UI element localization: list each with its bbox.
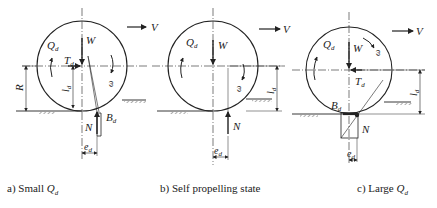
panel-b-labels: Qd W ω ld N ed V [186,23,291,158]
omega-rotation-arrow [242,64,244,80]
panel-a-labels: Qd W Td ω R ld Bd N ed V [13,21,159,154]
panel-a-small-qd [16,8,148,160]
svg-text:ω: ω [105,81,115,87]
svg-text:Bd: Bd [106,111,117,125]
caption-c: c) Large Qd [357,182,408,197]
svg-text:W: W [218,39,228,51]
svg-text:W: W [86,34,96,46]
caption-a: a) Small Qd [7,182,58,197]
svg-text:V: V [416,25,424,37]
svg-text:ed: ed [347,148,355,161]
svg-text:V: V [151,21,159,33]
svg-text:N: N [84,121,93,133]
svg-text:Bd: Bd [331,99,342,113]
svg-text:Qd: Qd [323,38,335,52]
svg-text:N: N [361,123,370,135]
svg-text:ω: ω [372,50,382,56]
svg-text:N: N [232,120,241,132]
svg-text:ed: ed [214,145,222,158]
omega-rotation-arrow [111,55,113,73]
svg-text:V: V [283,23,291,35]
q-rotation-arrow [314,57,317,80]
svg-text:ed: ed [84,141,92,154]
wheel-force-diagrams: Qd W Td ω R ld Bd N ed V Qd W ω ld N [0,0,437,208]
svg-text:Td: Td [64,54,74,68]
svg-text:ld: ld [265,87,278,94]
n-contact-point [355,113,359,117]
svg-text:W: W [353,42,363,54]
svg-text:Td: Td [355,75,365,89]
svg-text:Qd: Qd [186,36,198,50]
panel-b-self-propelling [152,8,285,165]
svg-text:ω: ω [233,86,243,92]
svg-text:ld: ld [60,85,73,92]
omega-rotation-arrow [363,38,374,48]
q-rotation-arrow [51,58,53,77]
svg-text:R: R [13,84,25,92]
q-rotation-arrow [181,58,183,78]
svg-text:Qd: Qd [47,39,59,53]
panel-c-large-qd [292,12,425,165]
caption-b: b) Self propelling state [160,182,261,194]
svg-text:ld: ld [408,89,421,96]
